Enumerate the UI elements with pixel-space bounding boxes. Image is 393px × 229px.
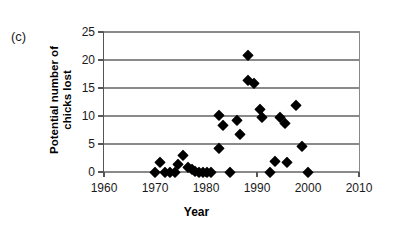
plot-area: 0510152025196019701980199020002010: [103, 31, 360, 173]
y-tick-mark: [98, 59, 103, 61]
y-gridline: [104, 31, 359, 33]
x-tick-label: 2000: [295, 181, 322, 195]
x-axis-title: Year: [0, 205, 393, 219]
data-point: [270, 156, 281, 167]
data-point: [218, 120, 229, 131]
data-point: [265, 167, 276, 178]
x-tick-mark: [256, 172, 258, 177]
y-gridline: [104, 143, 359, 145]
panel-label: (c): [11, 30, 26, 43]
y-tick-mark: [98, 87, 103, 89]
data-point: [234, 129, 245, 140]
data-point: [303, 167, 314, 178]
x-tick-label: 1970: [142, 181, 169, 195]
data-point: [290, 100, 301, 111]
y-gridline: [104, 59, 359, 61]
data-point: [297, 140, 308, 151]
data-point: [257, 112, 268, 123]
x-tick-mark: [358, 172, 360, 177]
data-point: [225, 167, 236, 178]
y-tick-label: 25: [82, 25, 95, 39]
y-gridline: [104, 87, 359, 89]
y-axis-title-text: Potential number of chicks lost: [48, 46, 75, 154]
data-point: [281, 157, 292, 168]
x-tick-label: 2010: [346, 181, 373, 195]
y-tick-mark: [98, 115, 103, 117]
figure-panel-c: (c) Potential number of chicks lost 0510…: [0, 0, 393, 229]
y-tick-mark: [98, 171, 103, 173]
x-tick-label: 1990: [244, 181, 271, 195]
x-tick-label: 1960: [91, 181, 118, 195]
y-tick-label: 10: [82, 109, 95, 123]
y-tick-label: 15: [82, 81, 95, 95]
data-point: [170, 167, 181, 178]
y-tick-label: 5: [88, 137, 95, 151]
data-point: [214, 143, 225, 154]
y-gridline: [104, 115, 359, 117]
y-tick-label: 0: [88, 165, 95, 179]
y-tick-label: 20: [82, 53, 95, 67]
y-tick-mark: [98, 143, 103, 145]
x-tick-mark: [103, 172, 105, 177]
x-tick-label: 1980: [193, 181, 220, 195]
data-point: [214, 110, 225, 121]
y-tick-mark: [98, 31, 103, 33]
